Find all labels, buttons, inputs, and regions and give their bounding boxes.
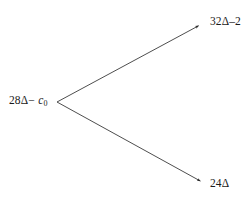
branching-diagram: 28Δ− c0 32Δ–2 24Δ (0, 0, 248, 202)
root-node-subscript: 0 (43, 99, 47, 108)
edge-to-upper-line (57, 26, 199, 102)
upper-node-label: 32Δ–2 (210, 15, 241, 27)
root-node-label: 28Δ− c0 (9, 94, 47, 108)
root-node-prefix: 28Δ− (9, 94, 35, 106)
lower-node-label: 24Δ (210, 177, 229, 189)
edge-to-lower-line (57, 102, 200, 181)
